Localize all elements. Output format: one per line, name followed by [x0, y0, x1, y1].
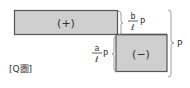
- negative-magnitude-denominator: ℓ: [94, 55, 98, 64]
- positive-sign-label: (+): [57, 17, 75, 30]
- negative-sign-label: (−): [132, 48, 150, 61]
- positive-magnitude-numerator: b: [130, 12, 135, 21]
- total-magnitude-label: P: [177, 39, 183, 49]
- shear-force-diagram: (+) (−) b ℓ P a ℓ P P [Q圖]: [0, 0, 190, 88]
- total-magnitude-brace: [168, 10, 174, 77]
- positive-magnitude-denominator: ℓ: [130, 23, 134, 32]
- diagram-caption: [Q圖]: [9, 64, 32, 74]
- negative-magnitude-variable: P: [103, 49, 108, 59]
- positive-magnitude-brace: [118, 11, 123, 35]
- positive-magnitude-variable: P: [140, 17, 145, 27]
- negative-magnitude-numerator: a: [95, 44, 100, 53]
